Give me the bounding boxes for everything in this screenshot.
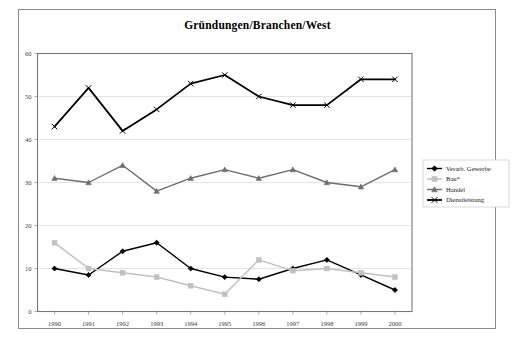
- x-marker: [86, 85, 91, 90]
- series-handel: [52, 163, 398, 194]
- square-marker: [324, 266, 329, 271]
- series-line: [55, 75, 395, 131]
- triangle-marker: [120, 163, 125, 168]
- diamond-marker: [222, 275, 227, 280]
- square-marker: [290, 268, 295, 273]
- diamond-marker: [256, 277, 261, 282]
- y-tick-label: 60: [25, 50, 32, 57]
- square-marker: [432, 176, 437, 181]
- x-marker: [120, 128, 125, 133]
- x-marker: [154, 107, 159, 112]
- x-tick-label: 1995: [218, 320, 231, 327]
- y-tick-label: 10: [25, 265, 32, 272]
- x-tick-label: 1990: [48, 320, 61, 327]
- diamond-marker: [392, 287, 397, 292]
- y-axis-tick-labels: 0102030405060: [25, 50, 38, 315]
- legend-item-label: Verarb. Gewerbe: [446, 165, 491, 172]
- x-tick-label: 2000: [388, 320, 401, 327]
- y-tick-label: 30: [25, 179, 32, 186]
- x-tick-label: 1996: [252, 320, 266, 327]
- x-axis-tick-labels: 1990199119921993199419951996199719981999…: [48, 320, 401, 327]
- x-tick-label: 1999: [354, 320, 367, 327]
- x-tick-label: 1994: [184, 320, 198, 327]
- x-tick-label: 1998: [320, 320, 333, 327]
- legend-item-label: Bau*: [446, 175, 460, 182]
- diamond-marker: [324, 257, 329, 262]
- square-marker: [256, 258, 261, 263]
- legend-item-label: Handel: [446, 186, 465, 193]
- square-marker: [52, 240, 57, 245]
- y-tick-label: 0: [28, 308, 31, 315]
- x-tick-label: 1992: [116, 320, 129, 327]
- x-tick-label: 1991: [82, 320, 95, 327]
- y-tick-label: 20: [25, 222, 32, 229]
- y-tick-label: 40: [25, 136, 32, 143]
- square-marker: [86, 266, 91, 271]
- legend-item-label: Dienstleistung: [446, 196, 485, 203]
- gridlines-group: [38, 54, 413, 269]
- square-marker: [359, 270, 364, 275]
- triangle-marker: [392, 167, 397, 172]
- square-marker: [393, 275, 398, 280]
- series-dienstleistung: [52, 72, 398, 133]
- series-verarb-gewerbe: [52, 240, 398, 293]
- square-marker: [120, 270, 125, 275]
- x-tick-label: 1997: [286, 320, 300, 327]
- square-marker: [154, 275, 159, 280]
- diamond-marker: [52, 266, 57, 271]
- square-marker: [222, 292, 227, 297]
- chart-legend: Verarb. GewerbeBau*HandelDienstleistung: [423, 160, 509, 207]
- line-chart-plot: 0102030405060 19901991199219931994199519…: [0, 0, 515, 348]
- figure-container: Gründungen/Branchen/West 0102030405060 1…: [0, 0, 515, 348]
- x-marker: [52, 124, 57, 129]
- square-marker: [188, 283, 193, 288]
- series-line: [55, 243, 395, 290]
- data-series-group: [52, 72, 398, 296]
- x-tick-label: 1993: [150, 320, 163, 327]
- y-tick-label: 50: [25, 93, 32, 100]
